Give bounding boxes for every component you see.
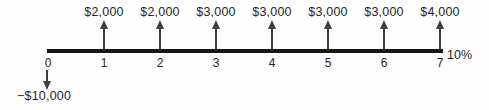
- inflow-arrow-shaft: [103, 29, 105, 49]
- period-tick-label: 0: [33, 56, 63, 70]
- inflow-arrow-shaft: [439, 29, 441, 49]
- inflow-arrow-shaft: [383, 29, 385, 49]
- inflow-amount-label: $4,000: [405, 5, 475, 19]
- outflow-amount-label: −$10,000: [17, 89, 71, 103]
- period-tick-label: 5: [313, 56, 343, 70]
- period-tick-label: 3: [201, 56, 231, 70]
- timeline-axis: [47, 49, 443, 53]
- cash-flow-diagram: $2,000$2,000$3,000$3,000$3,000$3,000$4,0…: [0, 0, 489, 110]
- inflow-arrow-up-icon: [324, 20, 332, 29]
- inflow-arrow-up-icon: [212, 20, 220, 29]
- inflow-arrow-shaft: [159, 29, 161, 49]
- period-tick-label: 6: [369, 56, 399, 70]
- period-tick-label: 2: [145, 56, 175, 70]
- period-tick-label: 4: [257, 56, 287, 70]
- inflow-arrow-up-icon: [268, 20, 276, 29]
- inflow-arrow-up-icon: [436, 20, 444, 29]
- inflow-arrow-shaft: [215, 29, 217, 49]
- inflow-arrow-up-icon: [100, 20, 108, 29]
- period-tick-label: 1: [89, 56, 119, 70]
- outflow-arrow-shaft: [46, 70, 48, 81]
- interest-rate-label: 10%: [447, 48, 472, 62]
- inflow-arrow-up-icon: [156, 20, 164, 29]
- inflow-arrow-shaft: [327, 29, 329, 49]
- inflow-arrow-shaft: [271, 29, 273, 49]
- inflow-arrow-up-icon: [380, 20, 388, 29]
